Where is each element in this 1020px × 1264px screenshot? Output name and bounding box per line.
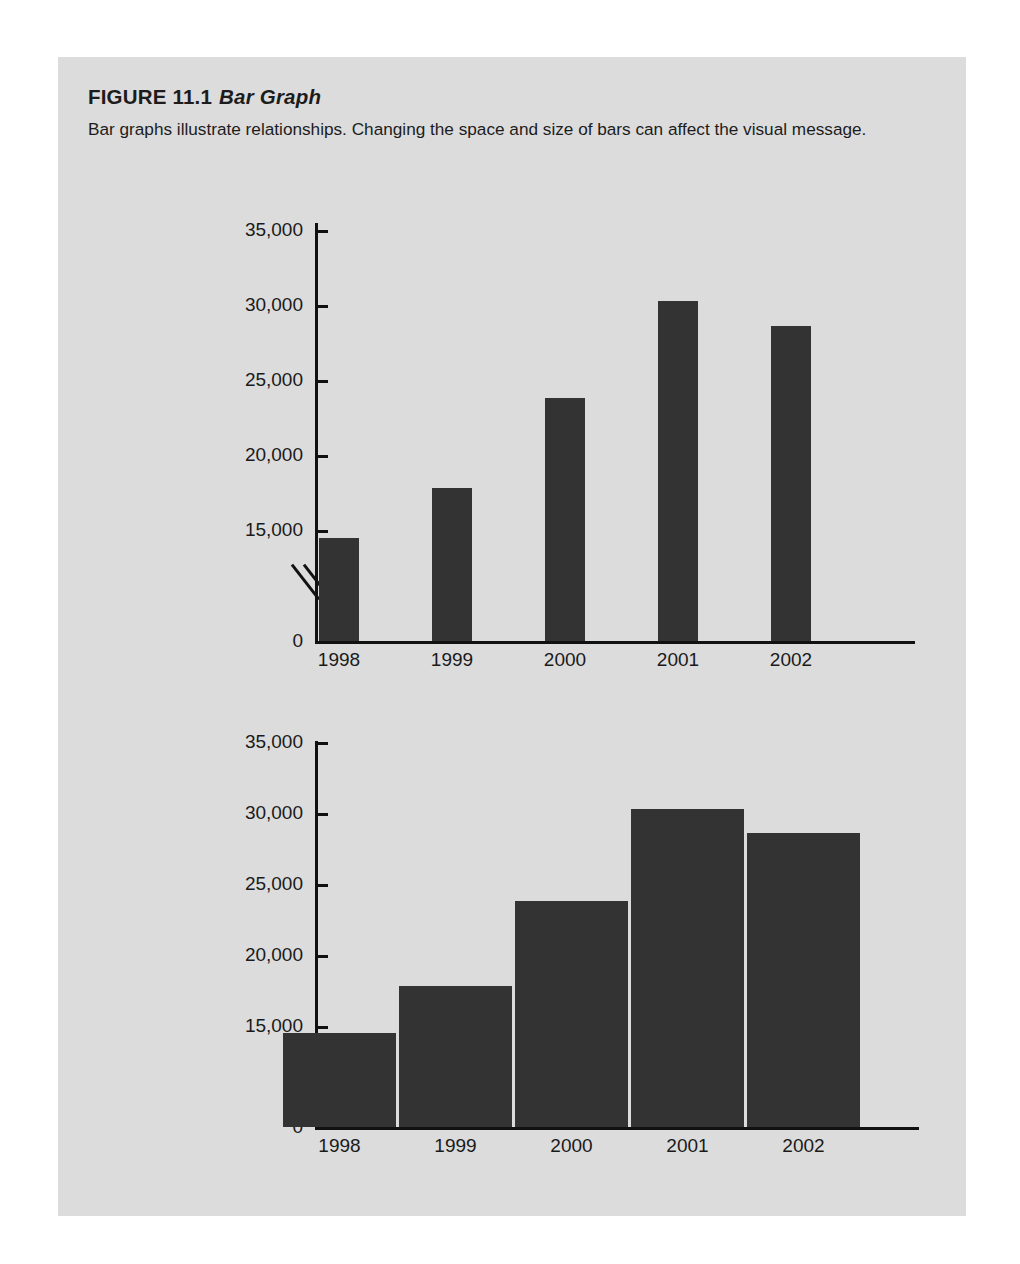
y-axis-tick [315, 813, 328, 816]
x-axis-label: 2000 [512, 1135, 632, 1157]
bar [399, 986, 512, 1127]
y-axis-tick [315, 742, 328, 745]
x-axis-label: 2002 [744, 1135, 864, 1157]
x-axis-label: 2001 [628, 1135, 748, 1157]
y-axis-label: 25,000 [143, 873, 303, 895]
bar-chart-wide-bars: 35,00030,00025,00020,00015,0000199819992… [58, 57, 966, 1216]
x-axis-label: 1999 [396, 1135, 516, 1157]
y-axis-tick [315, 884, 328, 887]
figure-panel: FIGURE 11.1Bar Graph Bar graphs illustra… [58, 57, 966, 1216]
y-axis-label: 20,000 [143, 944, 303, 966]
x-axis-label: 1998 [280, 1135, 400, 1157]
bar [747, 833, 860, 1127]
x-axis-line [315, 1127, 919, 1130]
y-axis-tick [315, 1026, 328, 1029]
bar [515, 901, 628, 1127]
y-axis-tick [315, 955, 328, 958]
page-root: FIGURE 11.1Bar Graph Bar graphs illustra… [0, 0, 1020, 1264]
bar [283, 1033, 396, 1127]
bar [631, 809, 744, 1127]
y-axis-label: 30,000 [143, 802, 303, 824]
y-axis-label: 35,000 [143, 731, 303, 753]
y-axis-label: 15,000 [143, 1015, 303, 1037]
